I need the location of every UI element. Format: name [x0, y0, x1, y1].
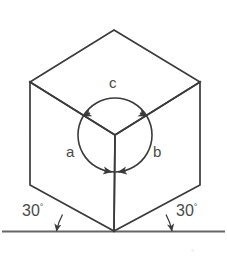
- cube-outline: [30, 30, 200, 231]
- angle-label-left: 30°: [22, 203, 43, 219]
- arrow-a-to-bottom: [104, 171, 112, 172]
- degree-symbol-left: °: [40, 202, 44, 212]
- angle-arc-right: [166, 215, 172, 232]
- angle-label-left-value: 30: [22, 202, 40, 219]
- angle-label-right-value: 30: [176, 202, 194, 219]
- face-label-a: a: [66, 144, 74, 159]
- circle-arc-right-b: [115, 117, 152, 173]
- figure-canvas: a b c 30° 30° °: [0, 0, 227, 257]
- face-label-b: b: [153, 144, 161, 159]
- angle-label-right: 30°: [176, 203, 197, 219]
- cropped-text-artifact: °: [191, 249, 194, 257]
- degree-symbol-right: °: [194, 202, 198, 212]
- circle-arc-left-a: [78, 117, 115, 173]
- arrow-b-to-bottom: [119, 171, 127, 172]
- circle-arc-top-c: [83, 98, 147, 117]
- face-label-c: c: [109, 75, 117, 90]
- angle-arc-left: [57, 215, 63, 232]
